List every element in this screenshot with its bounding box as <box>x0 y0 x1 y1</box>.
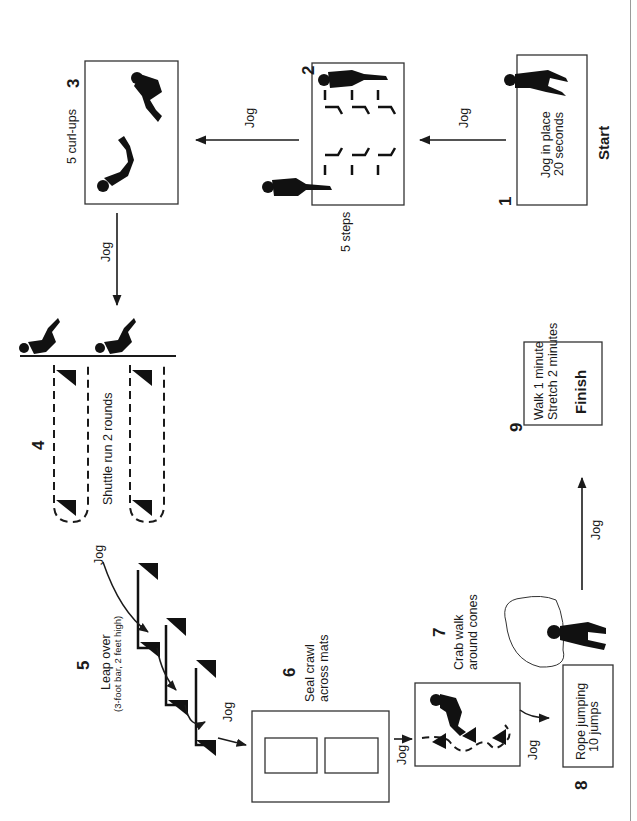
jog-label-5-6: Jog <box>222 702 235 722</box>
station-4-number: 4 <box>30 441 48 450</box>
jog-label-8-9: Jog <box>590 520 603 540</box>
station-1-line-2: 20 seconds <box>553 112 566 176</box>
jog-label-1-2: Jog <box>458 108 471 128</box>
cone-icon <box>432 727 506 749</box>
shuttle-runner-icon <box>19 318 136 354</box>
station-7-number: 7 <box>431 628 449 637</box>
mat-icon <box>265 738 378 773</box>
arrow-7-to-8 <box>520 710 549 718</box>
station-7-line-1: Crab walk <box>453 614 466 670</box>
station-2-number: 2 <box>300 66 318 75</box>
curl-up-person-icon <box>97 72 162 192</box>
station-9-number: 9 <box>508 423 526 432</box>
jog-label-2-3: Jog <box>244 108 257 128</box>
station-9-line-1: Walk 1 minute <box>533 341 546 420</box>
step-climbing-person-icon <box>262 70 388 196</box>
start-label: Start <box>596 126 612 160</box>
jog-label-7-8: Jog <box>527 740 540 760</box>
station-3-number: 3 <box>65 79 83 88</box>
station-7-box <box>415 683 520 766</box>
jog-label-3-4: Jog <box>100 242 113 262</box>
hurdle-bar-icon <box>138 570 216 745</box>
finish-label: Finish <box>573 370 589 414</box>
station-8-number: 8 <box>573 781 591 790</box>
jog-label-6-7: Jog <box>396 745 409 765</box>
station-8-line-2: 10 jumps <box>588 701 601 752</box>
rope-jumper-icon <box>547 622 606 650</box>
step-brackets-icon <box>325 90 395 175</box>
station-7-line-2: around cones <box>467 594 480 670</box>
station-4-line-1: Shuttle run 2 rounds <box>102 392 115 505</box>
jogging-person-icon <box>504 70 568 96</box>
jog-label-4-5: Jog <box>93 545 106 565</box>
station-6-line-2: across mats <box>318 635 331 702</box>
station-1-number: 1 <box>497 197 515 206</box>
hurdle-cone-icon <box>138 563 216 756</box>
course-diagram: 1 Jog in place 20 seconds Start Jog 2 5 … <box>0 0 637 821</box>
station-6-number: 6 <box>281 668 299 677</box>
station-5-line-2: (3-foot bar, 2 feet high) <box>113 616 123 712</box>
station-3-line-1: 5 curl-ups <box>66 109 79 164</box>
arrow-5-to-6 <box>218 738 246 745</box>
station-2-line-1: 5 steps <box>340 212 353 252</box>
station-6-line-1: Seal crawl <box>304 644 317 702</box>
crab-walk-person-icon <box>430 694 466 736</box>
station-9-line-2: Stretch 2 minutes <box>547 323 560 420</box>
station-5-number: 5 <box>75 661 93 670</box>
station-6-box <box>252 711 389 802</box>
